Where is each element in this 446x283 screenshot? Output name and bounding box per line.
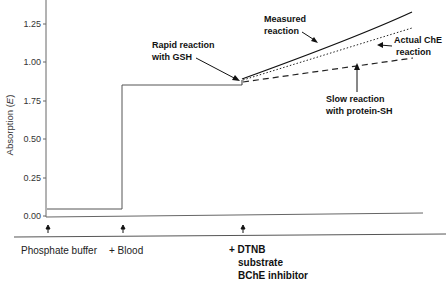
x-axis: [46, 213, 423, 217]
absorption-chart: 0.00 0.25 0.50 1.75 1.00 1.25 Absorption…: [0, 0, 446, 283]
svg-text:BChE inhibitor: BChE inhibitor: [238, 270, 308, 281]
event-phosphate-buffer: Phosphate buffer: [21, 245, 98, 256]
y-axis-label: Absorption (E): [4, 95, 15, 156]
annotation-gsh: Rapid reaction with GSH: [151, 40, 240, 81]
up-arrow-icon: [241, 225, 245, 229]
svg-text:with protein-SH: with protein-SH: [325, 106, 393, 116]
svg-text:Measured: Measured: [264, 14, 306, 24]
svg-text:+ DTNB: + DTNB: [229, 244, 265, 255]
timeline-arrows: [46, 225, 245, 233]
baseline-curve: [47, 85, 242, 209]
y-tick-label: 1.25: [23, 19, 41, 29]
y-tick-label: 0.00: [23, 211, 41, 221]
svg-text:substrate: substrate: [238, 257, 283, 268]
svg-text:reaction: reaction: [396, 47, 431, 57]
y-tick-label: 1.75: [23, 96, 41, 106]
svg-text:Actual ChE: Actual ChE: [394, 35, 442, 45]
annotation-protein-sh: Slow reaction with protein-SH: [325, 63, 393, 116]
annotation-actual-che: Actual ChE reaction: [377, 35, 442, 57]
y-tick-label: 0.25: [23, 173, 41, 183]
y-tick-label: 1.00: [23, 57, 41, 67]
y-tick-label: 0.50: [23, 134, 41, 144]
y-tick-labels: 0.00 0.25 0.50 1.75 1.00 1.25: [23, 19, 41, 221]
timeline-line: [14, 234, 446, 237]
event-blood: + Blood: [109, 245, 143, 256]
svg-text:Rapid reaction: Rapid reaction: [152, 40, 215, 50]
event-dtnb: + DTNB substrate BChE inhibitor: [229, 244, 308, 281]
svg-text:Slow reaction: Slow reaction: [326, 94, 385, 104]
svg-text:reaction: reaction: [264, 26, 299, 36]
annotation-measured: Measured reaction: [264, 14, 318, 43]
arrow-icon: [377, 42, 383, 48]
up-arrow-icon: [46, 225, 50, 229]
up-arrow-icon: [121, 225, 125, 229]
svg-text:with GSH: with GSH: [151, 52, 192, 62]
